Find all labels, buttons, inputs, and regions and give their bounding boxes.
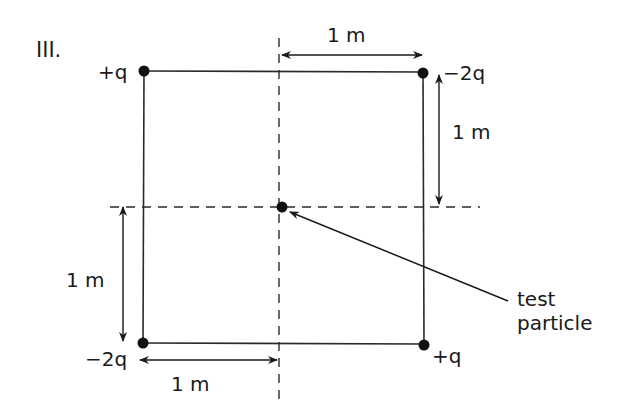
charge-dot-bottom-right [419, 340, 430, 351]
panel-label: III. [36, 40, 61, 61]
charge-label-top-right: −2q [443, 63, 485, 83]
dimension-label-right: 1 m [452, 122, 491, 142]
charge-label-bottom-right: +q [432, 346, 461, 366]
dimension-label-left: 1 m [66, 270, 105, 290]
charge-dot-bottom-left [138, 338, 149, 349]
charge-dot-top-left [139, 66, 150, 77]
charge-dot-top-right [418, 68, 429, 79]
test-particle-label-line2: particle [517, 313, 592, 333]
dimension-label-top: 1 m [327, 25, 366, 45]
charge-label-bottom-left: −2q [85, 349, 127, 369]
test-particle-dot [277, 202, 288, 213]
dimension-label-bottom: 1 m [171, 374, 210, 394]
test-particle-pointer-arrow [290, 212, 508, 301]
test-particle-label-line1: test [517, 289, 555, 309]
charge-label-top-left: +q [98, 62, 127, 82]
